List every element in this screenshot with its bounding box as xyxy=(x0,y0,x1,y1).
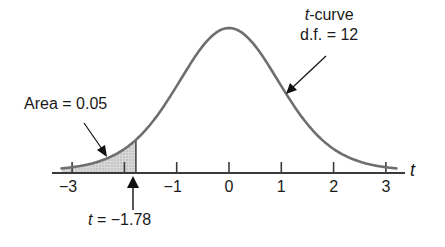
df-label: d.f. = 12 xyxy=(300,25,358,45)
t-value-text: = −1.78 xyxy=(92,211,151,228)
t-curve xyxy=(62,28,397,168)
t-curve-label-text: -curve xyxy=(309,6,353,23)
x-tick-label: 0 xyxy=(225,178,234,196)
t-curve-label: t-curve d.f. = 12 xyxy=(300,5,358,45)
x-tick-label: 2 xyxy=(329,178,338,196)
x-tick-label: 3 xyxy=(381,178,390,196)
area-arrow xyxy=(84,123,107,157)
x-tick-label: −3 xyxy=(59,178,77,196)
t-value-arrow xyxy=(127,176,139,210)
x-tick-label: −1 xyxy=(164,178,182,196)
t-value-label: t = −1.78 xyxy=(88,211,151,229)
area-label: Area = 0.05 xyxy=(24,95,107,113)
t-distribution-chart xyxy=(0,0,445,247)
x-tick-label: 1 xyxy=(277,178,286,196)
axis-variable-label: t xyxy=(410,160,415,181)
curve-arrow xyxy=(286,56,326,94)
